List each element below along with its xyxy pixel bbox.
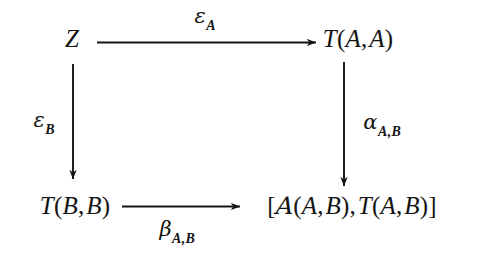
node-t-b-b-close-paren: ) xyxy=(102,192,111,219)
arrow-label-beta-ab: βA,B xyxy=(159,219,194,243)
node-t-a-a-arg1: A xyxy=(345,25,360,52)
alpha-ab-subscript: A,B xyxy=(378,124,401,139)
beta-ab-base: β xyxy=(159,217,171,241)
hom-mid-comma: , xyxy=(350,192,358,219)
node-z: Z xyxy=(65,26,79,51)
epsilon-a-subscript: A xyxy=(206,18,216,33)
node-t-a-a-functor: T xyxy=(323,25,337,52)
epsilon-b-base: ε xyxy=(34,108,45,132)
node-t-a-a-close-paren: ) xyxy=(385,25,394,52)
beta-ab-subscript: A,B xyxy=(172,231,195,246)
alpha-ab-base: α xyxy=(363,110,377,134)
hom-fun-arg1: A xyxy=(380,192,395,219)
node-t-b-b-arg2: B xyxy=(86,192,101,219)
node-z-label: Z xyxy=(65,25,79,52)
commutative-diagram: Z T(A,A) T(B,B) [A(A,B),T(A,B)] εA εB αA… xyxy=(0,0,479,257)
node-t-a-a: T(A,A) xyxy=(323,26,393,51)
epsilon-a-base: ε xyxy=(195,4,206,28)
node-t-b-b-open-paren: ( xyxy=(54,192,63,219)
hom-functor: T xyxy=(358,192,372,219)
script-a-icon: A xyxy=(275,194,295,218)
arrow-label-epsilon-a: εA xyxy=(195,6,216,30)
node-t-a-a-open-paren: ( xyxy=(337,25,346,52)
node-hom-bracket: [A(A,B),T(A,B)] xyxy=(267,193,437,218)
node-t-b-b-arg1: B xyxy=(62,192,77,219)
node-t-a-a-arg2: A xyxy=(369,25,384,52)
hom-fun-close-paren: ) xyxy=(420,192,429,219)
arrow-label-alpha-ab: αA,B xyxy=(363,112,400,136)
hom-fun-open-paren: ( xyxy=(372,192,381,219)
hom-close-bracket: ] xyxy=(428,192,437,219)
hom-fun-comma: , xyxy=(396,192,404,219)
arrow-label-epsilon-b: εB xyxy=(34,110,55,134)
epsilon-b-subscript: B xyxy=(45,122,55,137)
hom-fun-arg2: B xyxy=(404,192,419,219)
hom-cat-arg2: B xyxy=(326,192,341,219)
node-t-b-b: T(B,B) xyxy=(40,193,110,218)
node-t-b-b-functor: T xyxy=(40,192,54,219)
hom-cat-arg1: A xyxy=(302,192,317,219)
